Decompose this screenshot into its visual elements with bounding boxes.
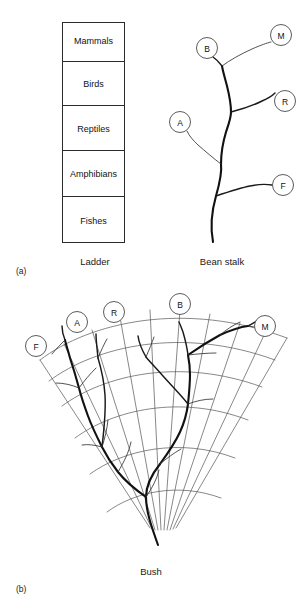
bush-minor-3 — [82, 445, 102, 447]
ladder-caption: Ladder — [80, 256, 110, 267]
bean-stalk-node-b: B — [197, 38, 218, 59]
bush-diagram: F A R B M Bush — [26, 294, 288, 578]
bush-node-label-a: A — [74, 318, 80, 328]
bush-node-label-m: M — [261, 322, 268, 332]
bush-node-a: A — [67, 312, 88, 333]
bean-stalk-branch-m — [222, 42, 271, 66]
bush-tip-b — [179, 322, 188, 355]
ladder-diagram: Mammals Birds Reptiles Amphibians Fishes… — [63, 23, 125, 268]
bean-stalk-branch-a — [187, 131, 221, 164]
bush-major-left-2 — [79, 388, 102, 447]
bean-stalk-branch-b — [213, 57, 222, 66]
bush-grid-arcs — [40, 318, 287, 512]
ladder-rung-label-mammals: Mammals — [74, 36, 114, 46]
bush-trunk-mid — [188, 355, 190, 404]
bush-node-m: M — [255, 316, 276, 337]
bean-stalk-branch-r — [231, 93, 275, 112]
bush-node-label-f: F — [33, 342, 38, 352]
bush-tip-r-stem — [146, 357, 188, 404]
bush-tip-a — [96, 334, 98, 358]
bean-stalk-branch-f — [216, 184, 272, 196]
bean-stalk-node-m: M — [271, 25, 292, 46]
bush-radial-1 — [40, 360, 150, 528]
bush-minor-11 — [146, 337, 154, 357]
bush-tip-f — [62, 326, 65, 340]
bush-arc-3 — [62, 372, 262, 406]
bush-node-label-r: R — [111, 308, 117, 318]
ladder-rung-label-reptiles: Reptiles — [77, 124, 110, 134]
bean-stalk-trunk-lower — [212, 164, 222, 242]
bush-minor-14 — [160, 449, 181, 464]
bush-radial-8 — [170, 323, 240, 530]
bush-node-f: F — [26, 336, 47, 357]
bean-stalk-node-label-b: B — [204, 44, 210, 54]
bean-stalk-trunk-upper — [222, 66, 231, 112]
bean-stalk-trunk-mid — [221, 112, 231, 164]
bean-stalk-node-a: A — [170, 112, 191, 133]
bush-major-left-1 — [102, 447, 146, 497]
bean-stalk-caption: Bean stalk — [200, 256, 245, 267]
bush-minor-1 — [79, 368, 96, 388]
ladder-rung-label-birds: Birds — [83, 79, 104, 89]
bush-caption: Bush — [140, 566, 162, 577]
bush-node-b: B — [170, 294, 191, 315]
ladder-rung-label-amphibians: Amphibians — [70, 169, 118, 179]
bean-stalk-node-label-f: F — [280, 181, 285, 191]
ladder-rung-label-fishes: Fishes — [80, 216, 107, 226]
bush-trunk-lower — [160, 404, 188, 464]
bush-major-right-1 — [188, 326, 248, 355]
bean-stalk-diagram: M B R A F Bean stalk — [170, 25, 296, 268]
bush-tip-a-stem — [98, 358, 105, 447]
bush-radial-4 — [120, 317, 158, 530]
bush-node-r: R — [104, 302, 125, 323]
evolutionary-tree-figure: Mammals Birds Reptiles Amphibians Fishes… — [0, 0, 301, 605]
bean-stalk-node-label-r: R — [282, 97, 288, 107]
panel-letter-b: (b) — [16, 584, 27, 594]
bush-minor-7 — [188, 399, 213, 404]
bush-radial-10 — [176, 338, 287, 528]
bush-node-label-b: B — [177, 300, 183, 310]
bush-radial-7 — [167, 314, 210, 530]
bean-stalk-node-label-m: M — [277, 31, 284, 41]
bush-minor-13 — [52, 340, 65, 354]
bush-minor-2 — [56, 383, 79, 388]
bean-stalk-node-f: F — [273, 175, 294, 196]
bean-stalk-node-label-a: A — [177, 118, 183, 128]
panel-letter-a: (a) — [16, 266, 27, 276]
bean-stalk-node-r: R — [275, 91, 296, 112]
bush-arc-inner — [107, 490, 221, 512]
bush-tip-r — [138, 336, 146, 357]
bush-minor-12 — [98, 339, 107, 358]
